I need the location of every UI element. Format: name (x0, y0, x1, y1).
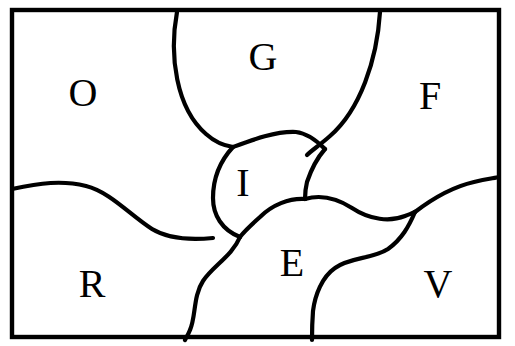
region-i-label: I (236, 163, 249, 203)
region-o-label: O (69, 73, 98, 113)
region-f-label: F (419, 76, 441, 116)
region-r-label: R (79, 264, 106, 304)
region-v-label: V (424, 264, 453, 304)
region-g-label: G (249, 37, 278, 77)
region-e-label: E (280, 243, 304, 283)
region-map-figure: OGFIREV (0, 0, 515, 346)
